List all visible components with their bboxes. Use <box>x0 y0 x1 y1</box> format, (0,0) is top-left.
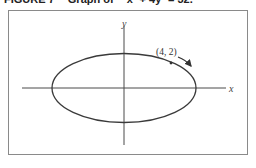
ellipse-plot: x y (4, 2) <box>0 0 256 168</box>
direction-arrow-icon <box>178 57 191 66</box>
point-label: (4, 2) <box>156 47 177 58</box>
y-axis-label: y <box>121 18 127 29</box>
x-axis-label: x <box>228 83 234 94</box>
point-marker <box>170 62 173 65</box>
